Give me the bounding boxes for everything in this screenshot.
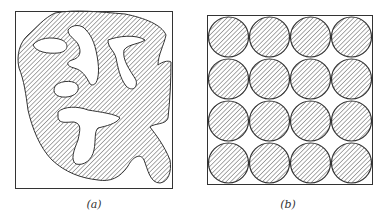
- hatched-circle: [332, 143, 372, 183]
- hatched-circle: [291, 59, 331, 99]
- hatched-circle: [209, 143, 249, 183]
- hatched-circle: [291, 143, 331, 183]
- hatched-circle: [250, 143, 290, 183]
- panel-a: [16, 11, 173, 188]
- hatched-circle: [209, 17, 249, 57]
- hatched-circle: [291, 101, 331, 141]
- hatched-circle: [332, 17, 372, 57]
- hatched-circle: [332, 101, 372, 141]
- hatched-circle: [209, 59, 249, 99]
- hatched-circle: [250, 17, 290, 57]
- circle-grid: [209, 17, 372, 183]
- hatched-circle: [209, 101, 249, 141]
- hatched-circle: [332, 59, 372, 99]
- caption-a: (a): [86, 198, 101, 211]
- figure-canvas: (a) (b): [0, 0, 382, 214]
- caption-b: (b): [280, 198, 296, 211]
- hatched-circle: [291, 17, 331, 57]
- panel-b: [208, 16, 373, 185]
- hatched-circle: [250, 101, 290, 141]
- hatched-region: [18, 11, 171, 183]
- hatched-circle: [250, 59, 290, 99]
